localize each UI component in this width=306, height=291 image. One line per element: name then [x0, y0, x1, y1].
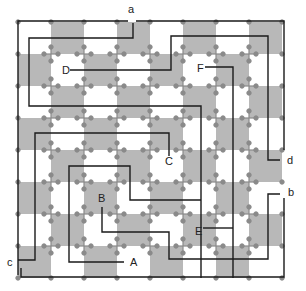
terminal-b-label: b	[288, 187, 294, 198]
shaded-cell	[249, 86, 282, 118]
shaded-cell	[249, 150, 282, 182]
shaded-cell	[249, 214, 282, 246]
terminal-d-label: d	[287, 155, 293, 166]
point-F-label: F	[197, 63, 204, 74]
shaded-cell	[51, 214, 84, 246]
point-D-label: D	[62, 65, 70, 76]
point-A-label: A	[130, 257, 137, 268]
shaded-cell	[150, 246, 183, 278]
edge-node-icon	[16, 276, 20, 280]
point-C-label: C	[165, 156, 173, 167]
shaded-cell	[150, 118, 183, 150]
shaded-cell	[183, 150, 216, 182]
point-B-label: B	[98, 193, 105, 204]
shaded-cell	[117, 214, 150, 246]
shaded-cell	[183, 86, 216, 118]
terminal-c-label: c	[7, 257, 13, 268]
shaded-cell	[249, 22, 282, 54]
edge-node-icon	[280, 180, 284, 184]
shaded-cell	[183, 22, 216, 54]
shaded-cell	[150, 182, 183, 214]
shaded-cell	[84, 118, 117, 150]
shaded-cell	[117, 86, 150, 118]
terminal-a-label: a	[128, 4, 134, 15]
maze-diagram	[0, 0, 306, 291]
point-E-label: E	[195, 226, 202, 237]
shaded-cell	[51, 86, 84, 118]
shaded-cell	[18, 54, 51, 86]
